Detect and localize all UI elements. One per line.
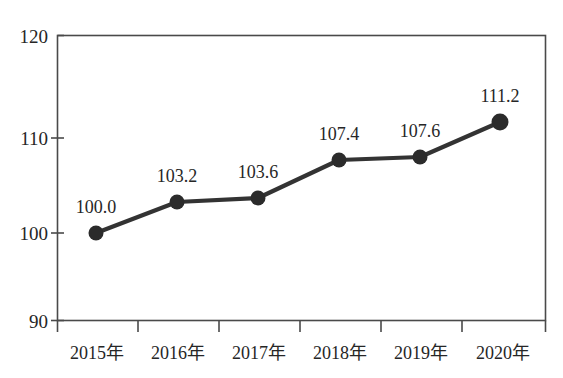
data-point-2017 — [251, 191, 266, 206]
x-category-label-2015: 2015年 — [70, 343, 124, 363]
data-point-2019 — [413, 150, 428, 165]
y-tick-label-120: 120 — [20, 26, 49, 47]
y-tick-label-90: 90 — [29, 311, 48, 332]
data-point-2018 — [332, 153, 347, 168]
y-tick-label-100: 100 — [20, 223, 49, 244]
x-category-label-2017: 2017年 — [232, 343, 286, 363]
x-category-label-2020: 2020年 — [476, 343, 530, 363]
data-label-2020: 111.2 — [480, 86, 519, 106]
chart-figure: 120 110 100 90 100.0 103.2 103.6 — [0, 0, 563, 378]
data-point-2016 — [170, 195, 185, 210]
x-category-label-2018: 2018年 — [313, 343, 367, 363]
line-chart: 120 110 100 90 100.0 103.2 103.6 — [0, 0, 563, 378]
data-label-2017: 103.6 — [238, 162, 279, 182]
y-tick-label-110: 110 — [20, 128, 48, 149]
x-category-label-2019: 2019年 — [394, 343, 448, 363]
x-category-label-2016: 2016年 — [151, 343, 205, 363]
data-label-2019: 107.6 — [400, 121, 441, 141]
data-label-2016: 103.2 — [157, 166, 198, 186]
x-axis-ticks — [58, 321, 546, 333]
data-point-2020 — [492, 114, 509, 131]
data-label-2018: 107.4 — [319, 124, 360, 144]
data-label-2015: 100.0 — [76, 197, 117, 217]
data-point-2015 — [89, 226, 104, 241]
